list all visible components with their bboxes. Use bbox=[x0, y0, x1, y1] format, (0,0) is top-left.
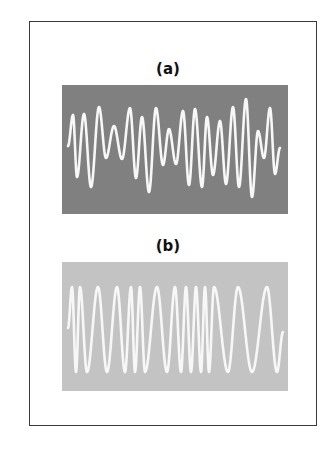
panel-b-waveform bbox=[62, 262, 288, 391]
waveform-b-plot bbox=[62, 262, 288, 391]
panel-b-label: (b) bbox=[0, 237, 336, 255]
waveform-line bbox=[68, 287, 283, 372]
panel-a-waveform bbox=[62, 85, 288, 214]
waveform-line bbox=[68, 99, 280, 197]
panel-a-label: (a) bbox=[0, 60, 336, 78]
waveform-a-plot bbox=[62, 85, 288, 214]
